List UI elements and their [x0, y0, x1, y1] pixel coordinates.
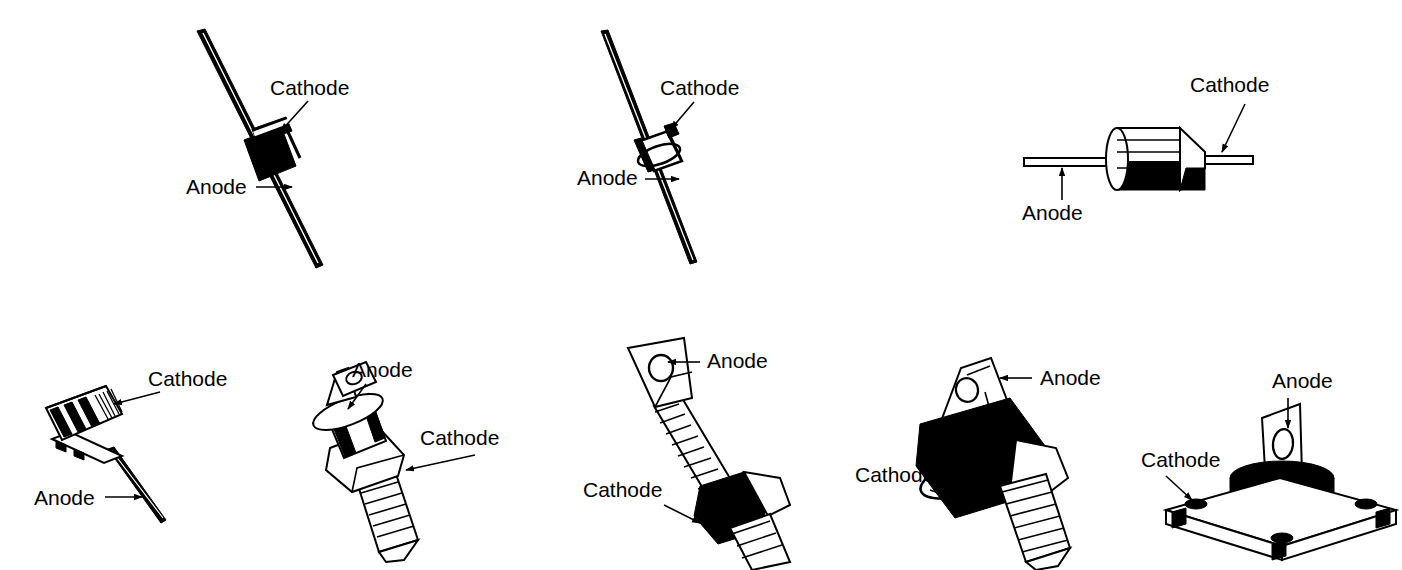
diode-illustration-canvas: Cathode Anode — [0, 0, 1402, 570]
label-anode: Anode — [352, 358, 413, 381]
label-cathode: Cathode — [1141, 448, 1220, 471]
label-anode: Anode — [577, 166, 638, 189]
label-cathode: Cathode — [855, 463, 934, 486]
label-anode: Anode — [1272, 369, 1333, 392]
mounting-hole — [1185, 499, 1207, 509]
diode-package-figure: Cathode Anode — [0, 0, 1402, 570]
label-anode: Anode — [1022, 201, 1083, 224]
diode-body — [1106, 128, 1205, 190]
label-cathode: Cathode — [1190, 73, 1269, 96]
label-cathode: Cathode — [270, 76, 349, 99]
label-cathode: Cathode — [660, 76, 739, 99]
label-anode: Anode — [707, 349, 768, 372]
label-cathode: Cathode — [420, 426, 499, 449]
mounting-hole — [1271, 533, 1293, 543]
terminal-hole — [649, 355, 673, 381]
label-cathode: Cathode — [148, 367, 227, 390]
body-end-cap — [1106, 128, 1128, 190]
label-cathode: Cathode — [583, 478, 662, 501]
label-anode: Anode — [186, 175, 247, 198]
label-anode: Anode — [34, 486, 95, 509]
mounting-hole — [1355, 499, 1377, 509]
label-anode: Anode — [1040, 366, 1101, 389]
